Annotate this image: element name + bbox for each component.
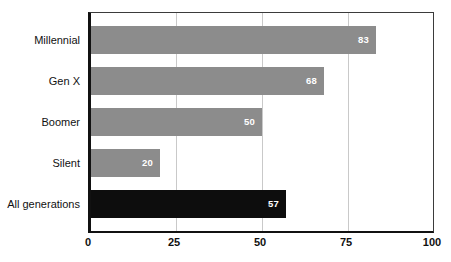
bar-value-silent: 20 bbox=[142, 158, 160, 168]
y-axis-label-gen-x: Gen X bbox=[49, 67, 84, 95]
y-axis-category-labels: Millennial Gen X Boomer Silent All gener… bbox=[0, 12, 84, 233]
bar-silent: 20 bbox=[91, 149, 160, 177]
bar-value-boomer: 50 bbox=[244, 117, 262, 127]
bar-row-gen-x: 68 bbox=[91, 67, 433, 95]
y-axis-label-millennial: Millennial bbox=[34, 26, 84, 54]
bar-row-millennial: 83 bbox=[91, 26, 433, 54]
bars-layer: 83 68 50 20 57 bbox=[91, 13, 433, 231]
bar-all-generations: 57 bbox=[91, 190, 286, 218]
bar-value-millennial: 83 bbox=[358, 35, 376, 45]
bar-row-all-generations: 57 bbox=[91, 190, 433, 218]
bar-gen-x: 68 bbox=[91, 67, 324, 95]
x-axis-tick-labels: 0 25 50 75 100 bbox=[88, 236, 434, 250]
bar-value-all-generations: 57 bbox=[268, 199, 286, 209]
x-tick-100: 100 bbox=[423, 236, 441, 248]
y-axis-label-silent: Silent bbox=[52, 149, 84, 177]
y-axis-label-all-generations: All generations bbox=[7, 190, 84, 218]
y-axis-label-boomer: Boomer bbox=[41, 108, 84, 136]
clipped-caption bbox=[0, 254, 451, 262]
x-tick-50: 50 bbox=[254, 236, 266, 248]
bar-value-gen-x: 68 bbox=[306, 76, 324, 86]
x-tick-25: 25 bbox=[168, 236, 180, 248]
x-tick-75: 75 bbox=[340, 236, 352, 248]
bar-chart: Millennial Gen X Boomer Silent All gener… bbox=[0, 0, 451, 262]
bar-millennial: 83 bbox=[91, 26, 376, 54]
plot-area: 83 68 50 20 57 bbox=[88, 12, 434, 233]
bar-row-silent: 20 bbox=[91, 149, 433, 177]
bar-row-boomer: 50 bbox=[91, 108, 433, 136]
bar-boomer: 50 bbox=[91, 108, 262, 136]
x-tick-0: 0 bbox=[85, 236, 91, 248]
